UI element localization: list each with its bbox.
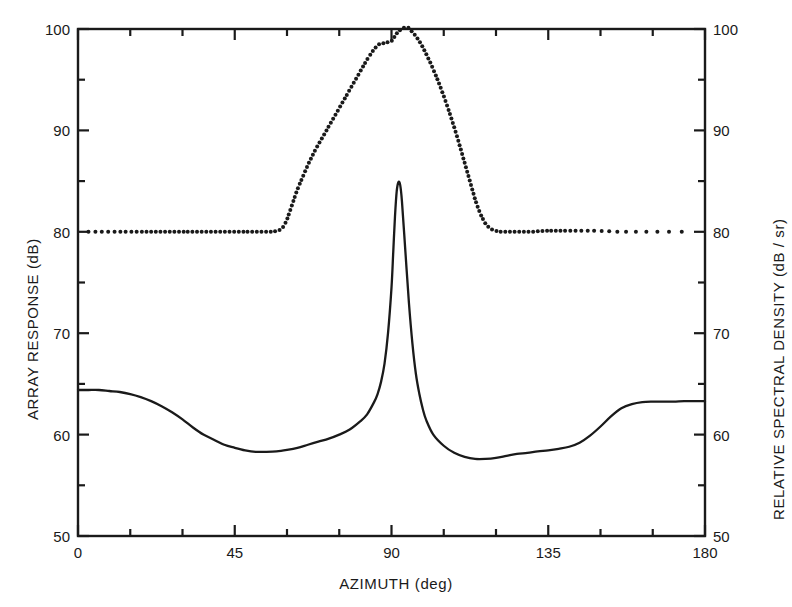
y-axis-right-title: RELATIVE SPECTRAL DENSITY (dB / sr) [770,218,787,520]
chart-figure: 0459013518050607080901005060708090100 AZ… [0,0,792,607]
x-tick-label: 45 [226,544,243,561]
x-tick-label: 0 [74,544,82,561]
y-tick-label-right: 60 [713,426,730,443]
x-tick-label: 180 [692,544,717,561]
y-tick-label-right: 100 [713,21,738,38]
x-tick-label: 135 [536,544,561,561]
x-tick-label: 90 [383,544,400,561]
x-axis-title: AZIMUTH (deg) [0,575,792,592]
y-tick-label-left: 50 [20,528,70,545]
y-tick-label-right: 80 [713,223,730,240]
y-tick-label-left: 100 [20,21,70,38]
array-response-curve [78,182,705,459]
y-axis-left-title: ARRAY RESPONSE (dB) [24,238,41,420]
y-tick-label-left: 60 [20,426,70,443]
plot-canvas [0,0,792,607]
y-tick-label-right: 50 [713,528,730,545]
y-tick-label-right: 70 [713,325,730,342]
y-tick-label-right: 90 [713,122,730,139]
y-tick-label-left: 90 [20,122,70,139]
relative-spectral-density-curve [86,26,683,234]
